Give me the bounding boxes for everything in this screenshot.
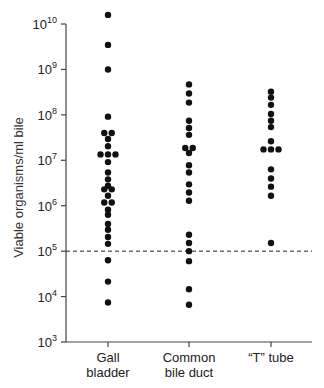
data-point [186, 90, 192, 96]
data-point [109, 199, 115, 205]
x-category-t-tube: “T” tube [231, 350, 311, 365]
data-point [101, 130, 107, 136]
data-point [105, 234, 111, 240]
data-point [186, 150, 192, 156]
data-point [186, 125, 192, 131]
data-point [186, 232, 192, 238]
data-point [105, 241, 111, 247]
x-category-common-bile-duct: Common bile duct [149, 350, 229, 380]
data-point [105, 12, 111, 18]
data-point [109, 130, 115, 136]
y-tick-label: 106 [38, 197, 57, 214]
y-tick-label: 108 [38, 106, 57, 123]
data-point [260, 146, 266, 152]
data-point [186, 181, 192, 187]
y-tick-label: 105 [38, 242, 57, 259]
data-point [268, 111, 274, 117]
data-point [268, 138, 274, 144]
data-point [97, 151, 103, 157]
data-point [105, 221, 111, 227]
data-point [105, 159, 111, 165]
data-point [268, 124, 274, 130]
data-point [186, 81, 192, 87]
y-tick-label: 109 [38, 60, 57, 77]
data-point [105, 136, 111, 142]
data-point [268, 193, 274, 199]
data-point [268, 240, 274, 246]
data-point [105, 169, 111, 175]
y-tick-label: 103 [38, 333, 57, 350]
data-point [101, 199, 107, 205]
data-point [268, 166, 274, 172]
data-point [186, 169, 192, 175]
data-point [105, 42, 111, 48]
data-point [105, 257, 111, 263]
data-point [105, 176, 111, 182]
data-point [109, 186, 115, 192]
data-point [105, 193, 111, 199]
data-point [186, 248, 192, 254]
data-point [101, 186, 107, 192]
data-point [186, 162, 192, 168]
y-tick-label: 107 [38, 151, 57, 168]
data-point [268, 175, 274, 181]
data-point [186, 118, 192, 124]
data-point [105, 143, 111, 149]
data-point [186, 189, 192, 195]
dot-plot: 1010109108107106105104103 [0, 0, 324, 388]
y-tick-label: 104 [38, 288, 57, 305]
data-point [268, 118, 274, 124]
data-point [268, 146, 274, 152]
data-point [275, 146, 281, 152]
data-point [186, 198, 192, 204]
data-point [268, 88, 274, 94]
data-point [105, 151, 111, 157]
data-points [97, 12, 281, 308]
data-point [105, 212, 111, 218]
data-point [268, 183, 274, 189]
data-point [105, 299, 111, 305]
data-point [268, 94, 274, 100]
data-point [186, 302, 192, 308]
data-point [186, 132, 192, 138]
y-tick-label: 1010 [33, 15, 57, 32]
data-point [186, 99, 192, 105]
data-point [186, 286, 192, 292]
data-point [186, 258, 192, 264]
data-point [268, 102, 274, 108]
data-point [112, 151, 118, 157]
axes: 1010109108107106105104103 [33, 15, 312, 350]
data-point [186, 240, 192, 246]
data-point [105, 278, 111, 284]
x-category-gall-bladder: Gall bladder [68, 350, 148, 380]
data-point [105, 66, 111, 72]
y-axis-label: Viable organisms/ml bile [11, 88, 26, 288]
data-point [105, 227, 111, 233]
data-point [105, 113, 111, 119]
